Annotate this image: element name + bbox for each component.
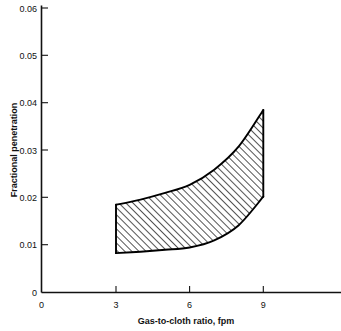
y-tick-label-0: 0 [32,288,37,298]
y-tick-label-0.03: 0.03 [19,146,37,156]
y-tick-marks [42,8,49,245]
y-axis-title: Fractional penetration [9,103,19,198]
fractional-penetration-chart: 0.06 0.05 0.04 0.03 0.02 0.01 0 0 3 6 9 … [0,0,341,331]
x-tick-label-9: 9 [261,300,266,310]
x-tick-label-6: 6 [187,300,192,310]
band-hatch [116,110,263,253]
x-axis-title: Gas-to-cloth ratio, fpm [138,316,235,326]
y-tick-label-0.05: 0.05 [19,51,37,61]
axes-group: 0.06 0.05 0.04 0.03 0.02 0.01 0 0 3 6 9 … [9,4,341,327]
y-tick-label-0.04: 0.04 [19,98,37,108]
x-tick-marks [116,286,263,293]
y-tick-label-0.06: 0.06 [19,4,37,14]
x-tick-label-3: 3 [113,300,118,310]
chart-page: 0.06 0.05 0.04 0.03 0.02 0.01 0 0 3 6 9 … [0,0,341,331]
y-tick-label-0.01: 0.01 [19,240,37,250]
y-tick-label-0.02: 0.02 [19,193,37,203]
x-tick-label-0: 0 [39,300,44,310]
hatched-band-group [116,110,263,253]
